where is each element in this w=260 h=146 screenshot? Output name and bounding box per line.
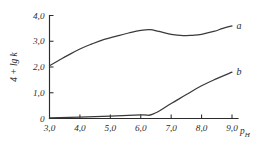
axes-group — [50, 16, 239, 119]
x-tick-label-6: 9,0 — [226, 123, 238, 133]
curve-a-endpoint-label: a — [237, 20, 242, 31]
curve-b-endpoint-label: b — [237, 66, 242, 77]
y-axis-tick-labels: 01,02,03,04,0 — [32, 11, 45, 124]
x-tick-label-5: 8,0 — [196, 123, 208, 133]
y-axis-title-group: 4 + lg k — [9, 51, 19, 81]
x-axis-title-subscript: H — [244, 131, 251, 139]
y-tick-label-1: 1,0 — [33, 88, 45, 98]
x-axis-title: pH — [239, 126, 251, 139]
curve-labels-group: ab — [237, 20, 242, 77]
y-tick-label-3: 3,0 — [32, 36, 45, 46]
curve-a — [50, 26, 233, 66]
x-tick-label-1: 4,0 — [74, 123, 86, 133]
x-tick-label-2: 5,0 — [105, 123, 117, 133]
y-tick-label-4: 4,0 — [33, 11, 45, 21]
y-axis-title: 4 + lg k — [9, 51, 19, 81]
curve-b — [50, 72, 233, 118]
x-axis-title-group: pH — [239, 126, 251, 139]
y-tick-label-2: 2,0 — [33, 62, 45, 72]
chart-plot-area: 01,02,03,04,0 3,04,05,06,07,08,09,0 ab 4… — [0, 0, 260, 146]
x-axis-tick-labels: 3,04,05,06,07,08,09,0 — [43, 123, 238, 133]
y-axis-ticks — [50, 16, 54, 119]
x-tick-label-0: 3,0 — [43, 123, 56, 133]
data-series-group — [50, 26, 233, 118]
x-tick-label-4: 7,0 — [165, 123, 177, 133]
chart-figure: 01,02,03,04,0 3,04,05,06,07,08,09,0 ab 4… — [0, 0, 260, 146]
x-tick-label-3: 6,0 — [135, 123, 147, 133]
